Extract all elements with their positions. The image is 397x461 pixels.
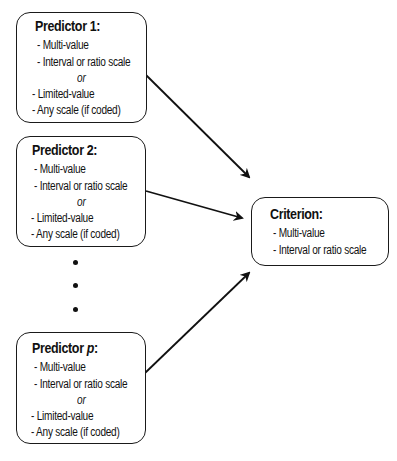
predictor-p-line-2: - Interval or ratio scale <box>34 377 127 391</box>
predictor-1-line-4: - Any scale (if coded) <box>32 103 121 117</box>
predictor-p-or: or <box>77 393 86 407</box>
predictor-2-box: Predictor 2: - Multi-value - Interval or… <box>16 136 146 247</box>
criterion-title: Criterion: <box>270 206 323 222</box>
predictor-p-title-prefix: Predictor <box>32 340 87 356</box>
arrow-predictor-2-to-criterion <box>146 191 242 218</box>
predictor-p-title: Predictor p: <box>32 340 98 356</box>
predictor-1-title: Predictor 1: <box>35 18 100 34</box>
ellipsis-dot-1 <box>73 260 78 265</box>
predictor-1-box: Predictor 1: - Multi-value - Interval or… <box>16 12 147 123</box>
predictor-1-or: or <box>77 71 86 85</box>
predictor-p-line-4: - Any scale (if coded) <box>31 425 120 439</box>
predictor-1-line-3: - Limited-value <box>32 87 94 101</box>
predictor-p-box: Predictor p: - Multi-value - Interval or… <box>16 332 146 444</box>
criterion-line-1: - Multi-value <box>273 226 325 240</box>
arrow-predictor-1-to-criterion <box>146 75 249 177</box>
predictor-1-line-2: - Interval or ratio scale <box>37 55 130 69</box>
ellipsis-dot-3 <box>73 307 78 312</box>
criterion-line-2: - Interval or ratio scale <box>273 243 366 257</box>
predictor-1-line-1: - Multi-value <box>37 38 89 52</box>
predictor-2-line-4: - Any scale (if coded) <box>31 227 120 241</box>
predictor-2-title: Predictor 2: <box>32 142 97 158</box>
predictor-p-line-3: - Limited-value <box>31 409 93 423</box>
predictor-2-line-3: - Limited-value <box>31 211 93 225</box>
predictor-2-or: or <box>77 195 86 209</box>
predictor-p-title-suffix: : <box>94 340 98 356</box>
criterion-box: Criterion: - Multi-value - Interval or r… <box>251 197 389 266</box>
arrow-predictor-p-to-criterion <box>145 273 249 373</box>
predictor-2-line-2: - Interval or ratio scale <box>34 179 127 193</box>
predictor-2-line-1: - Multi-value <box>34 162 86 176</box>
ellipsis-dot-2 <box>73 283 78 288</box>
predictor-p-line-1: - Multi-value <box>34 360 86 374</box>
